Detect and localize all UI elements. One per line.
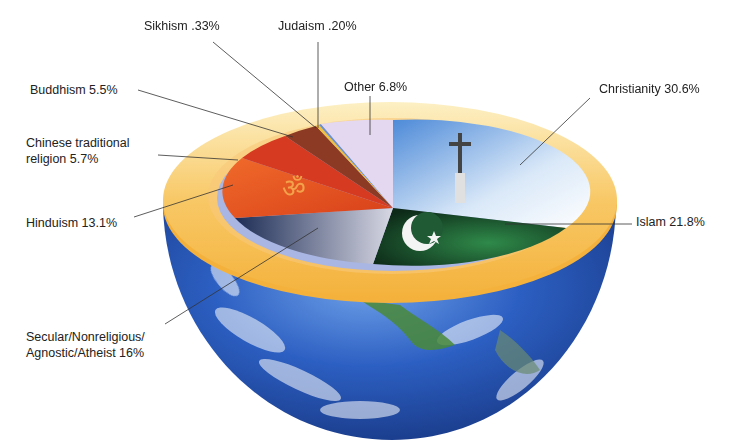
label-secular-line1: Secular/Nonreligious/ bbox=[26, 330, 145, 345]
label-hinduism: Hinduism 13.1% bbox=[26, 216, 117, 231]
label-secular-line2: Agnostic/Atheist 16% bbox=[26, 346, 144, 361]
label-judaism: Judaism .20% bbox=[278, 19, 357, 34]
label-chinese-line2: religion 5.7% bbox=[26, 152, 98, 167]
label-christianity: Christianity 30.6% bbox=[599, 82, 700, 97]
label-sikhism: Sikhism .33% bbox=[144, 19, 220, 34]
pie-wedges: ॐ bbox=[222, 119, 590, 265]
om-icon: ॐ bbox=[282, 173, 306, 203]
label-other: Other 6.8% bbox=[344, 80, 407, 95]
label-chinese-line1: Chinese traditional bbox=[26, 136, 130, 151]
label-islam: Islam 21.8% bbox=[636, 215, 705, 230]
label-buddhism: Buddhism 5.5% bbox=[30, 83, 118, 98]
